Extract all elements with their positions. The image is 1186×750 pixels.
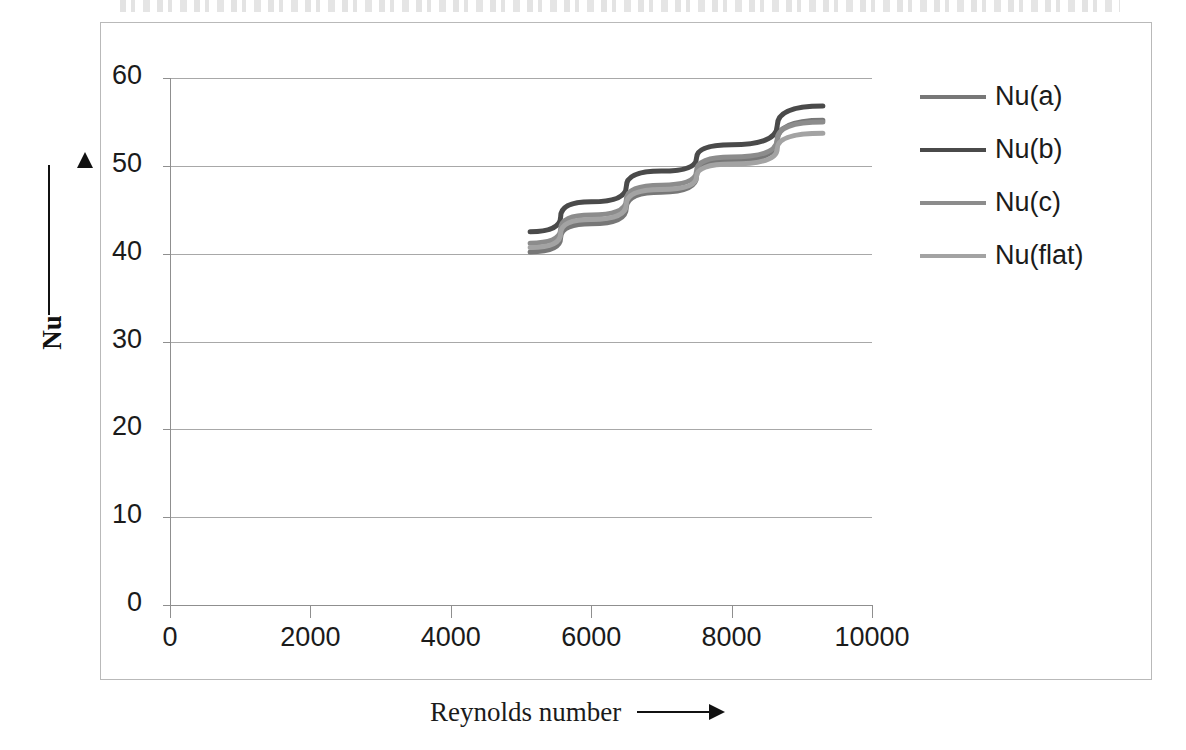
- legend-item-nua[interactable]: Nu(a): [920, 70, 1130, 123]
- x-tick-4000: [451, 605, 452, 618]
- right-arrow-icon: [637, 711, 723, 713]
- y-tick-label-40: 40: [82, 236, 142, 267]
- x-tick-10000: [872, 605, 873, 618]
- x-tick-label-2000: 2000: [250, 622, 370, 653]
- legend-label: Nu(flat): [995, 240, 1084, 271]
- x-tick-label-10000: 10000: [812, 622, 932, 653]
- legend-item-nub[interactable]: Nu(b): [920, 123, 1130, 176]
- y-tick-label-20: 20: [82, 411, 142, 442]
- x-tick-label-8000: 8000: [672, 622, 792, 653]
- x-axis-line: [170, 605, 873, 606]
- legend-item-nuflat[interactable]: Nu(flat): [920, 229, 1130, 282]
- data-series-layer: [170, 78, 872, 605]
- x-tick-8000: [732, 605, 733, 618]
- y-axis-title-group: Nu: [14, 165, 90, 405]
- chart-legend: Nu(a)Nu(b)Nu(c)Nu(flat): [920, 70, 1130, 282]
- y-axis-title: Nu: [37, 288, 68, 378]
- legend-swatch-icon: [920, 254, 986, 258]
- x-tick-2000: [310, 605, 311, 618]
- y-tick-label-0: 0: [82, 587, 142, 618]
- x-axis-title: Reynolds number: [430, 697, 621, 728]
- scanned-text-artifact: [120, 0, 1120, 12]
- x-tick-label-4000: 4000: [391, 622, 511, 653]
- series-line-nuflat: [530, 133, 823, 247]
- legend-swatch-icon: [920, 95, 986, 99]
- legend-swatch-icon: [920, 148, 986, 152]
- x-tick-0: [170, 605, 171, 618]
- x-tick-6000: [591, 605, 592, 618]
- y-tick-label-60: 60: [82, 60, 142, 91]
- series-line-nub: [530, 106, 823, 232]
- legend-label: Nu(a): [995, 81, 1063, 112]
- legend-item-nuc[interactable]: Nu(c): [920, 176, 1130, 229]
- x-tick-label-0: 0: [110, 622, 230, 653]
- y-tick-label-10: 10: [82, 499, 142, 530]
- legend-swatch-icon: [920, 201, 986, 205]
- x-axis-title-group: Reynolds number: [430, 692, 870, 732]
- chart-figure: 0102030405060 0200040006000800010000 Nu …: [0, 0, 1186, 750]
- x-tick-label-6000: 6000: [531, 622, 651, 653]
- legend-label: Nu(b): [995, 134, 1063, 165]
- y-tick-label-30: 30: [82, 324, 142, 355]
- legend-label: Nu(c): [995, 187, 1061, 218]
